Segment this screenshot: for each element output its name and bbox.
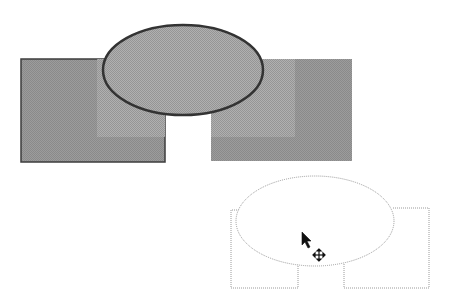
top-ellipse[interactable] xyxy=(103,25,263,115)
original-shape-group[interactable] xyxy=(0,0,453,305)
shapes-canvas xyxy=(0,0,453,305)
move-preview-outline xyxy=(231,176,429,288)
